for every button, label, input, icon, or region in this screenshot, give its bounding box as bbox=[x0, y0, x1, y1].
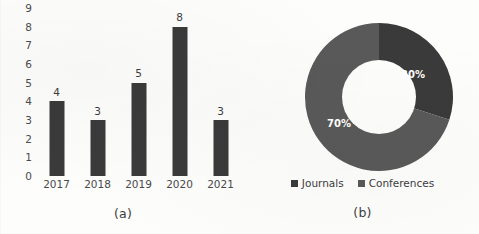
bar-value-label: 5 bbox=[135, 68, 142, 79]
legend-swatch-icon bbox=[358, 180, 365, 187]
panel-a-bar-chart: 9 8 7 6 5 4 3 2 1 0 4 3 bbox=[0, 0, 246, 234]
bar-2020 bbox=[172, 27, 187, 176]
y-axis-tick: 5 bbox=[16, 77, 32, 88]
y-axis-tick: 1 bbox=[16, 152, 32, 163]
y-axis-tick: 2 bbox=[16, 133, 32, 144]
bar-slot-2020: 8 bbox=[159, 8, 200, 176]
panel-b-donut-chart: 30% 70% Journals Conferences (b) bbox=[246, 0, 479, 234]
x-axis-tick-2018: 2018 bbox=[77, 179, 118, 190]
bar-value-label: 8 bbox=[176, 12, 183, 23]
bar-slot-2017: 4 bbox=[36, 8, 77, 176]
x-axis-tick-2019: 2019 bbox=[118, 179, 159, 190]
bar-chart-y-axis: 9 8 7 6 5 4 3 2 1 0 bbox=[16, 8, 32, 176]
donut-chart: 30% 70% Journals Conferences bbox=[246, 0, 479, 234]
bar-value-label: 4 bbox=[53, 87, 60, 98]
legend-label-journals: Journals bbox=[302, 178, 344, 189]
x-axis-tick-2020: 2020 bbox=[159, 179, 200, 190]
bar-slot-2021: 3 bbox=[200, 8, 241, 176]
y-axis-tick: 3 bbox=[16, 115, 32, 126]
bar-2018 bbox=[90, 120, 105, 176]
donut-label-conferences: 70% bbox=[327, 118, 351, 129]
x-axis-tick-2021: 2021 bbox=[200, 179, 241, 190]
bar-chart-x-axis: 2017 2018 2019 2020 2021 bbox=[36, 179, 241, 197]
panel-a-caption: (a) bbox=[0, 206, 246, 221]
bar-value-label: 3 bbox=[94, 106, 101, 117]
panel-b-caption: (b) bbox=[246, 205, 479, 220]
legend-item-conferences[interactable]: Conferences bbox=[358, 178, 434, 189]
bar-chart-plot-area: 4 3 5 8 3 bbox=[36, 8, 241, 176]
y-axis-tick: 6 bbox=[16, 59, 32, 70]
bar-2017 bbox=[49, 101, 64, 176]
donut-legend: Journals Conferences bbox=[246, 178, 479, 189]
bar-chart: 9 8 7 6 5 4 3 2 1 0 4 3 bbox=[0, 8, 246, 198]
y-axis-tick: 4 bbox=[16, 96, 32, 107]
donut-label-journals: 30% bbox=[401, 69, 425, 80]
y-axis-tick: 0 bbox=[16, 171, 32, 182]
donut-svg: 30% 70% bbox=[303, 21, 455, 173]
bar-slot-2019: 5 bbox=[118, 8, 159, 176]
bar-2021 bbox=[213, 120, 228, 176]
y-axis-tick: 7 bbox=[16, 40, 32, 51]
legend-label-conferences: Conferences bbox=[369, 178, 434, 189]
bar-2019 bbox=[131, 83, 146, 176]
figure-container: 9 8 7 6 5 4 3 2 1 0 4 3 bbox=[0, 0, 479, 234]
bar-slot-2018: 3 bbox=[77, 8, 118, 176]
legend-item-journals[interactable]: Journals bbox=[291, 178, 344, 189]
x-axis-tick-2017: 2017 bbox=[36, 179, 77, 190]
y-axis-tick: 8 bbox=[16, 21, 32, 32]
bar-value-label: 3 bbox=[217, 106, 224, 117]
legend-swatch-icon bbox=[291, 180, 298, 187]
y-axis-tick: 9 bbox=[16, 3, 32, 14]
